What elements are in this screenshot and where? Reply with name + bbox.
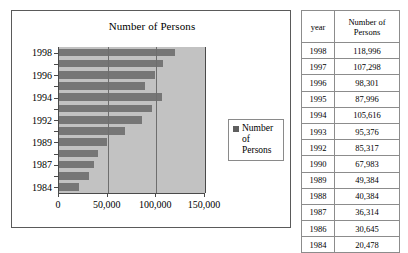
bar-1988 bbox=[59, 150, 98, 158]
data-table-wrapper: year Number of Persons 1998118,996199710… bbox=[301, 10, 397, 253]
table-row: 198840,384 bbox=[302, 188, 400, 204]
bar-row bbox=[59, 81, 205, 92]
bar-row bbox=[59, 170, 205, 181]
cell-number-of-persons: 85,317 bbox=[335, 140, 400, 156]
y-tick-label-1992: 1992 bbox=[32, 115, 52, 126]
y-tick bbox=[54, 75, 58, 76]
bar-row bbox=[59, 148, 205, 159]
legend-label: Number of Persons bbox=[242, 123, 278, 156]
table-head: year Number of Persons bbox=[302, 11, 400, 43]
bar-1994 bbox=[59, 93, 162, 101]
bar-row bbox=[59, 182, 205, 193]
table-row: 199698,301 bbox=[302, 75, 400, 91]
cell-year: 1997 bbox=[302, 59, 335, 75]
gridline-150000 bbox=[205, 47, 206, 193]
y-tick bbox=[54, 142, 58, 143]
gridline-100000 bbox=[156, 47, 157, 193]
y-tick bbox=[54, 165, 58, 166]
cell-year: 1996 bbox=[302, 75, 335, 91]
cell-number-of-persons: 105,616 bbox=[335, 107, 400, 123]
table-row: 1997107,298 bbox=[302, 59, 400, 75]
bar-1993 bbox=[59, 105, 152, 113]
bar-1992 bbox=[59, 116, 142, 124]
y-tick bbox=[54, 120, 58, 121]
x-tick-label-50000: 50,000 bbox=[93, 199, 121, 210]
bar-row bbox=[59, 159, 205, 170]
cell-year: 1995 bbox=[302, 91, 335, 107]
table-row: 198736,314 bbox=[302, 204, 400, 220]
y-tick-label-1998: 1998 bbox=[32, 47, 52, 58]
bar-row bbox=[59, 137, 205, 148]
cell-year: 1989 bbox=[302, 172, 335, 188]
y-tick bbox=[54, 131, 58, 132]
bar-1990 bbox=[59, 127, 125, 135]
column-header-line1: Number of bbox=[348, 17, 385, 27]
cell-year: 1993 bbox=[302, 123, 335, 139]
y-tick bbox=[54, 187, 58, 188]
cell-year: 1984 bbox=[302, 237, 335, 253]
y-tick-label-1984: 1984 bbox=[32, 182, 52, 193]
bar-row bbox=[59, 92, 205, 103]
bar-1984 bbox=[59, 183, 79, 191]
x-tick-100000 bbox=[155, 193, 156, 197]
cell-number-of-persons: 30,645 bbox=[335, 221, 400, 237]
cell-year: 1990 bbox=[302, 156, 335, 172]
y-tick bbox=[54, 109, 58, 110]
y-tick bbox=[54, 64, 58, 65]
column-header-line2: Persons bbox=[354, 27, 380, 37]
bar-row bbox=[59, 114, 205, 125]
y-axis-labels: 1998199619941992198919871984 bbox=[12, 47, 56, 193]
chart-title: Number of Persons bbox=[12, 20, 292, 32]
y-tick bbox=[54, 154, 58, 155]
table-body: 1998118,9961997107,298199698,301199587,9… bbox=[302, 43, 400, 253]
bar-1995 bbox=[59, 82, 145, 90]
gridline-50000 bbox=[108, 47, 109, 193]
table-row: 1994105,616 bbox=[302, 107, 400, 123]
x-tick-label-0: 0 bbox=[56, 199, 61, 210]
chart-panel: Number of Persons 1998199619941992198919… bbox=[11, 10, 291, 228]
cell-number-of-persons: 118,996 bbox=[335, 43, 400, 59]
column-header-number-of-persons: Number of Persons bbox=[335, 11, 400, 43]
cell-number-of-persons: 95,376 bbox=[335, 123, 400, 139]
cell-number-of-persons: 107,298 bbox=[335, 59, 400, 75]
x-tick-label-100000: 100,000 bbox=[139, 199, 172, 210]
y-tick bbox=[54, 86, 58, 87]
y-tick bbox=[54, 53, 58, 54]
bar-row bbox=[59, 126, 205, 137]
chart-legend: Number of Persons bbox=[228, 119, 284, 161]
table-row: 198949,384 bbox=[302, 172, 400, 188]
bar-row bbox=[59, 58, 205, 69]
cell-year: 1986 bbox=[302, 221, 335, 237]
bar-1997 bbox=[59, 60, 163, 68]
table-row: 199395,376 bbox=[302, 123, 400, 139]
x-tick-0 bbox=[58, 193, 59, 197]
bar-row bbox=[59, 103, 205, 114]
bar-series bbox=[59, 47, 205, 193]
bar-row bbox=[59, 47, 205, 58]
cell-number-of-persons: 36,314 bbox=[335, 204, 400, 220]
cell-year: 1992 bbox=[302, 140, 335, 156]
x-tick-50000 bbox=[107, 193, 108, 197]
cell-number-of-persons: 40,384 bbox=[335, 188, 400, 204]
cell-number-of-persons: 87,996 bbox=[335, 91, 400, 107]
cell-number-of-persons: 49,384 bbox=[335, 172, 400, 188]
table-header-row: year Number of Persons bbox=[302, 11, 400, 43]
table-row: 199285,317 bbox=[302, 140, 400, 156]
y-tick-label-1996: 1996 bbox=[32, 70, 52, 81]
cell-year: 1994 bbox=[302, 107, 335, 123]
bar-row bbox=[59, 69, 205, 80]
y-tick bbox=[54, 98, 58, 99]
table-row: 199067,983 bbox=[302, 156, 400, 172]
column-header-year: year bbox=[302, 11, 335, 43]
plot-area bbox=[58, 47, 205, 194]
cell-year: 1998 bbox=[302, 43, 335, 59]
bar-1998 bbox=[59, 49, 175, 57]
bar-1989 bbox=[59, 138, 107, 146]
table-row: 198420,478 bbox=[302, 237, 400, 253]
cell-number-of-persons: 98,301 bbox=[335, 75, 400, 91]
y-tick-label-1989: 1989 bbox=[32, 137, 52, 148]
cell-number-of-persons: 67,983 bbox=[335, 156, 400, 172]
legend-swatch-icon bbox=[233, 126, 239, 132]
cell-year: 1988 bbox=[302, 188, 335, 204]
